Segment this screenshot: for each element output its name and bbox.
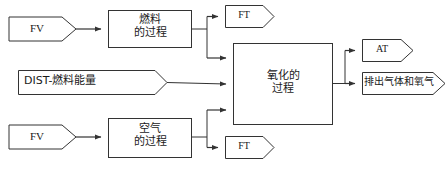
- node-shape-exhaust-output: [363, 73, 446, 95]
- node-shape-at-output: [363, 40, 414, 62]
- node-shape-dist-fuel-energy: [19, 71, 168, 95]
- node-shape-ft-top: [226, 6, 275, 28]
- node-shape-fuel-process: [109, 11, 192, 48]
- diagram-canvas: [0, 0, 446, 173]
- process-flow-diagram: FV 燃料 的过程 FT DIST-燃料能量 氧化的 过程 AT 排出气体和氧气…: [0, 0, 446, 173]
- node-shape-air-process: [109, 119, 192, 158]
- node-shape-ft-bottom: [226, 137, 275, 159]
- node-shape-oxidation-process: [234, 44, 333, 125]
- node-shape-fv-air: [9, 125, 76, 149]
- node-shape-fv-fuel: [9, 17, 76, 41]
- connector-dist-to-oxidation: [167, 83, 226, 85]
